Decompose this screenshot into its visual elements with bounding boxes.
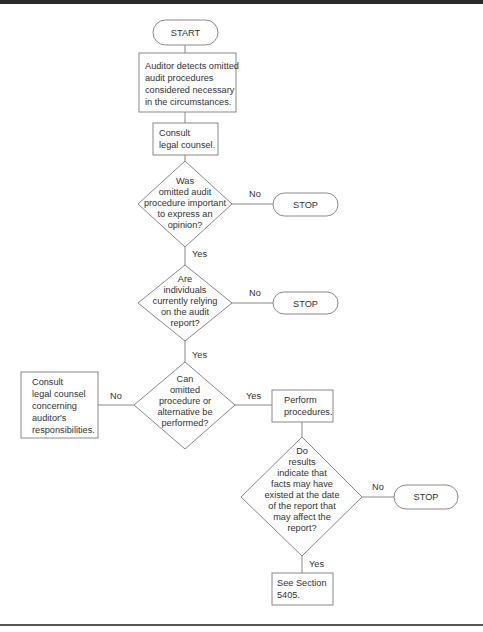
stop-label: STOP — [414, 492, 439, 502]
see-section-box: See Section 5405. — [272, 573, 333, 605]
decision-individuals-relying: Are individuals currently relying on the… — [138, 265, 232, 341]
yes-label: Yes — [192, 350, 207, 360]
decision-line: omitted audit — [159, 187, 212, 197]
decision-line: of the report that — [268, 501, 336, 511]
detect-line: Auditor detects omitted — [145, 61, 239, 71]
perform-line: Perform — [284, 395, 317, 405]
decision-line: results — [288, 457, 315, 467]
consult-line: Consult — [159, 128, 191, 138]
decision-line: report? — [287, 523, 316, 533]
decision-line: on the audit — [161, 307, 209, 317]
start-label: START — [171, 28, 201, 38]
stop-label: STOP — [293, 200, 318, 210]
decision-line: Can — [177, 374, 194, 384]
yes-label: Yes — [246, 391, 261, 401]
consult-line: concerning — [32, 401, 77, 411]
flowchart: START Auditor detects omitted audit proc… — [0, 0, 483, 632]
perform-line: procedures. — [284, 407, 333, 417]
decision-line: Do — [296, 446, 308, 456]
decision-can-procedure-be-performed: Can omitted procedure or alternative be … — [134, 362, 235, 449]
stop-terminal-2: STOP — [273, 292, 338, 314]
decision-omitted-procedure-important: Was omitted audit procedure important to… — [138, 161, 232, 247]
decision-line: facts may have — [271, 479, 333, 489]
consult-line: legal counsel. — [159, 140, 215, 150]
consult-responsibilities-box: Consult legal counsel concerning auditor… — [21, 372, 98, 438]
decision-line: may affect the — [273, 512, 331, 522]
decision-line: individuals — [164, 285, 207, 295]
decision-line: procedure important — [144, 198, 227, 208]
section-line: 5405. — [277, 590, 300, 600]
detect-process-box: Auditor detects omitted audit procedures… — [139, 53, 239, 112]
decision-line: Was — [176, 176, 194, 186]
stop-label: STOP — [293, 299, 318, 309]
perform-procedures-box: Perform procedures. — [272, 390, 333, 422]
consult-line: Consult — [32, 377, 64, 387]
no-label: No — [110, 391, 122, 401]
decision-results-indicate-facts: Do results indicate that facts may have … — [241, 437, 362, 556]
consult-legal-counsel-box: Consult legal counsel. — [153, 123, 218, 155]
decision-line: existed at the date — [264, 490, 339, 500]
consult-line: responsibilities. — [32, 425, 95, 435]
detect-line: considered necessary — [145, 85, 235, 95]
decision-line: performed? — [162, 418, 209, 428]
detect-line: in the circumstances. — [145, 97, 231, 107]
decision-line: Are — [178, 274, 192, 284]
decision-line: currently relying — [153, 296, 218, 306]
stop-terminal-3: STOP — [394, 485, 458, 509]
no-label: No — [249, 288, 261, 298]
no-label: No — [249, 189, 261, 199]
detect-line: audit procedures — [145, 73, 214, 83]
consult-line: auditor's — [32, 413, 67, 423]
yes-label: Yes — [192, 249, 207, 259]
consult-line: legal counsel — [32, 389, 86, 399]
decision-line: indicate that — [277, 468, 327, 478]
section-line: See Section — [277, 578, 327, 588]
start-terminal: START — [153, 20, 218, 45]
decision-line: to express an — [157, 209, 212, 219]
no-label: No — [372, 482, 384, 492]
decision-line: alternative be — [157, 407, 212, 417]
decision-line: opinion? — [168, 220, 203, 230]
yes-label: Yes — [309, 559, 324, 569]
decision-line: omitted — [170, 385, 200, 395]
decision-line: procedure or — [159, 396, 211, 406]
stop-terminal-1: STOP — [273, 193, 338, 216]
decision-line: report? — [170, 318, 199, 328]
